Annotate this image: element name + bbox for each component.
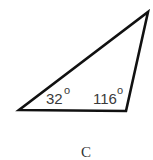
degree-symbol-left: o — [64, 84, 70, 96]
figure-caption: C — [81, 144, 91, 160]
angle-value-left: 32 — [46, 90, 63, 107]
degree-symbol-bottom-right: o — [117, 84, 123, 96]
triangle-shape — [19, 12, 148, 111]
triangle-diagram: 32 o 116 o C — [0, 0, 153, 160]
angle-label-bottom-right: 116 o — [93, 84, 123, 107]
angle-value-bottom-right: 116 — [93, 90, 117, 107]
